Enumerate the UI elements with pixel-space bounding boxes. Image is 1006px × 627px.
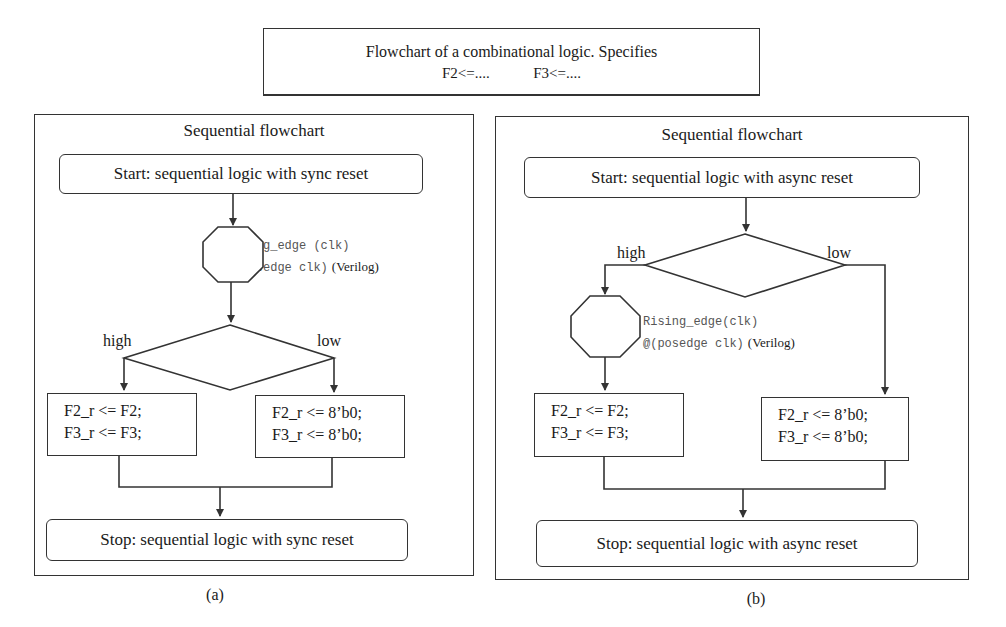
panel-b-clock-label: Rising_edge(clk) @(posedge clk) (Verilog…: [643, 313, 795, 354]
panel-b-clock-lang: (Verilog): [748, 335, 795, 350]
panel-b-low-line2: F3_r <= 8’b0;: [778, 426, 908, 448]
panel-b-caption: (b): [741, 588, 771, 610]
combinational-logic-header: Flowchart of a combinational logic. Spec…: [263, 28, 760, 96]
panel-a-clock-line1: Rising_edge (clk): [227, 237, 379, 256]
panel-a-start-node: Start: sequential logic with sync reset: [59, 154, 423, 194]
panel-b-high-line1: F2_r <= F2;: [551, 400, 683, 422]
panel-a-title: Sequential flowchart: [34, 118, 474, 144]
panel-b-high-label: high: [617, 244, 645, 262]
panel-a-clock-lang: (Verilog): [332, 259, 379, 274]
panel-b-low-assign-box: F2_r <= 8’b0; F3_r <= 8’b0;: [761, 397, 909, 461]
panel-b-decision-label: rst_b: [715, 256, 775, 276]
header-line1: Flowchart of a combinational logic. Spec…: [366, 41, 657, 63]
header-f3-spec: F3<=....: [533, 65, 581, 81]
panel-b-clock-line2: @(posedge clk): [643, 337, 744, 351]
panel-a-caption: (a): [200, 584, 230, 606]
panel-a-high-label: high: [103, 332, 131, 350]
panel-b-stop-node: Stop: sequential logic with async reset: [536, 520, 918, 567]
panel-b-high-assign-box: F2_r <= F2; F3_r <= F3;: [534, 393, 684, 457]
header-line2: F2<=.... F3<=....: [442, 63, 581, 83]
panel-a-low-label: low: [317, 332, 341, 350]
panel-b-clock-line1: Rising_edge(clk): [643, 313, 795, 332]
panel-a-low-assign-box: F2_r <= 8’b0; F3_r <= 8’b0;: [255, 395, 405, 458]
header-f2-spec: F2<=....: [442, 65, 490, 81]
panel-b-start-node: Start: sequential logic with async reset: [524, 157, 920, 198]
panel-a-high-assign-box: F2_r <= F2; F3_r <= F3;: [47, 393, 197, 456]
panel-b-high-line2: F3_r <= F3;: [551, 422, 683, 444]
panel-a-decision-label: rst_b: [200, 348, 260, 368]
panel-a-high-line1: F2_r <= F2;: [64, 400, 196, 422]
panel-a-low-line1: F2_r <= 8’b0;: [272, 402, 404, 424]
panel-b-title: Sequential flowchart: [495, 122, 969, 148]
panel-b-low-line1: F2_r <= 8’b0;: [778, 404, 908, 426]
panel-a-low-line2: F3_r <= 8’b0;: [272, 424, 404, 446]
panel-a-clock-line2: @(posedge clk): [227, 261, 328, 275]
panel-b-low-label: low: [827, 244, 851, 262]
panel-a-clock-label: Rising_edge (clk) @(posedge clk) (Verilo…: [227, 237, 379, 278]
panel-a-stop-node: Stop: sequential logic with sync reset: [46, 519, 408, 561]
panel-a-high-line2: F3_r <= F3;: [64, 422, 196, 444]
